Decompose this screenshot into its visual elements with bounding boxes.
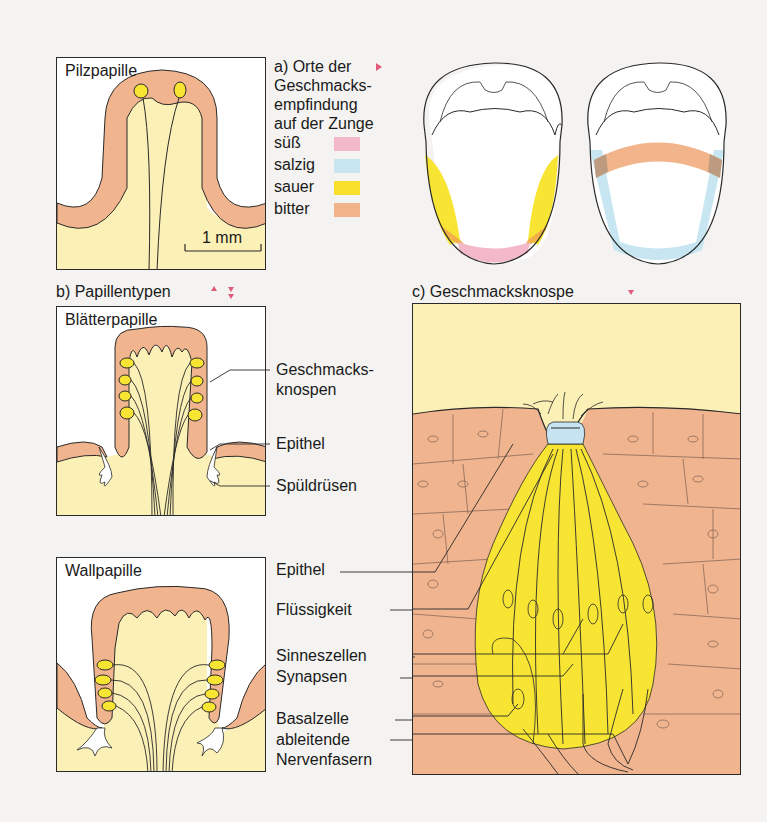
marker-right-icon	[376, 63, 382, 71]
tongue-maps	[410, 50, 750, 280]
legend-swatch-suess	[334, 137, 360, 151]
panel-title: Pilzpapille	[65, 62, 137, 80]
label-epithel-c: Epithel	[276, 560, 325, 579]
legend-label-sauer: sauer	[274, 177, 314, 196]
tongue-salty-bitter	[588, 63, 726, 264]
label-epithel-b: Epithel	[276, 434, 325, 453]
panel-title: Blätterpapille	[65, 311, 158, 329]
scale-bar-label: 1 mm	[202, 228, 242, 247]
heading-line: auf der Zunge	[274, 114, 374, 133]
heading-line: empfindung	[274, 95, 374, 114]
marker-down-icon	[228, 294, 234, 299]
section-a-heading: a) Orte der Geschmacks- empfindung auf d…	[274, 57, 374, 133]
label-spueldruesen: Spüldrüsen	[276, 476, 357, 495]
legend-swatch-salzig	[334, 159, 360, 173]
label-geschmacksknospen-2: knospen	[276, 380, 337, 399]
marker-down-icon	[628, 290, 634, 295]
label-geschmacksknospen: Geschmacks-	[276, 360, 374, 379]
wallpapille-panel: Wallpapille	[56, 557, 266, 772]
section-c-label-leaders	[340, 560, 480, 760]
marker-down-icon	[228, 287, 234, 292]
legend-label-bitter: bitter	[274, 199, 310, 218]
heading-line: Geschmacks-	[274, 76, 374, 95]
legend-swatch-sauer	[334, 181, 360, 195]
label-ableitende: ableitende	[276, 730, 350, 749]
panel-title: Wallpapille	[65, 562, 142, 580]
section-c-heading: c) Geschmacksknospe	[412, 282, 574, 301]
label-basalzelle: Basalzelle	[276, 709, 349, 728]
section-b-leaders	[210, 360, 270, 500]
marker-up-icon	[211, 286, 217, 291]
label-synapsen: Synapsen	[276, 667, 347, 686]
wallpapille-illustration	[57, 558, 266, 772]
section-b-heading: b) Papillentypen	[56, 282, 171, 301]
legend-swatch-bitter	[334, 203, 360, 217]
tongue-sweet-sour	[424, 63, 562, 264]
legend-label-salzig: salzig	[274, 155, 315, 174]
legend-label-suess: süß	[274, 133, 301, 152]
pilzpapille-panel: Pilzpapille 1 mm	[56, 57, 266, 270]
heading-line: a) Orte der	[274, 57, 374, 76]
